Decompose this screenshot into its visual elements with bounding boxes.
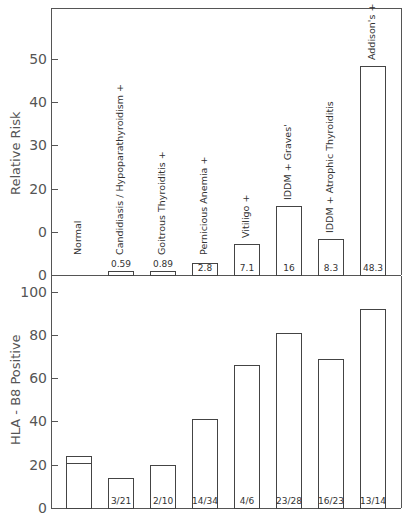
- figure: 0020304050Relative RiskNormal0.59Candidi…: [0, 0, 409, 523]
- relative-risk-value: 0.89: [150, 259, 176, 269]
- bottom-y-tick: [51, 335, 58, 336]
- bottom-y-tick: [51, 465, 58, 466]
- top-x-axis: [51, 275, 401, 276]
- relative-risk-value: 0.59: [108, 259, 134, 269]
- category-label: IDDM + Atrophic Thyroiditis: [324, 101, 335, 233]
- category-label: Addison's + IDDM: [366, 0, 377, 60]
- relative-risk-value: 48.3: [360, 263, 386, 273]
- relative-risk-bar: [108, 271, 134, 276]
- top-y-axis-label: Relative Risk: [8, 111, 23, 195]
- bottom-y-tick: [51, 421, 58, 422]
- top-y-tick-label: 50: [13, 52, 47, 66]
- hla-b8-bar: [66, 456, 92, 509]
- top-frame-top: [51, 8, 401, 9]
- hla-b8-fraction: 2/10: [150, 496, 176, 506]
- normal-inner-line: [66, 463, 92, 464]
- hla-b8-bar: [276, 333, 302, 509]
- bottom-y-tick: [51, 508, 58, 509]
- hla-b8-bar: [318, 359, 344, 509]
- category-label: IDDM + Graves': [282, 124, 293, 200]
- hla-b8-fraction: 4/6: [234, 496, 260, 506]
- relative-risk-value: 7.1: [234, 263, 260, 273]
- hla-b8-bar: [360, 309, 386, 509]
- hla-b8-fraction: 14/34: [192, 496, 218, 506]
- bottom-y-tick-label: 20: [13, 458, 47, 472]
- relative-risk-bar: [150, 271, 176, 276]
- bottom-y-tick-label: 100: [13, 285, 47, 299]
- top-y-tick: [51, 189, 58, 190]
- top-y-tick-label: 40: [13, 95, 47, 109]
- top-y-tick: [51, 102, 58, 103]
- bottom-y-axis-label: HLA - B8 Positive: [8, 334, 23, 445]
- category-label: Goitrous Thyroiditis +: [156, 151, 167, 255]
- relative-risk-value: 16: [276, 263, 302, 273]
- category-label: Pernicious Anemia +: [198, 157, 209, 255]
- hla-b8-fraction: 23/28: [276, 496, 302, 506]
- category-label: Candidiasis / Hypoparathyroidism +: [114, 84, 125, 255]
- top-frame-right: [401, 8, 402, 275]
- hla-b8-bar: [234, 365, 260, 509]
- hla-b8-fraction: 3/21: [108, 496, 134, 506]
- top-y-tick-label: 0: [13, 225, 47, 239]
- hla-b8-fraction: 13/14: [360, 496, 386, 506]
- hla-b8-fraction: 16/23: [318, 496, 344, 506]
- bottom-x-axis: [51, 508, 401, 509]
- top-y-tick-label: 0: [13, 268, 47, 282]
- bottom-y-tick: [51, 378, 58, 379]
- bottom-y-tick: [51, 292, 58, 293]
- bottom-y-tick-label: 0: [13, 501, 47, 515]
- top-y-tick: [51, 59, 58, 60]
- category-label: Normal: [72, 221, 83, 255]
- top-y-axis: [51, 8, 52, 275]
- top-y-tick: [51, 232, 58, 233]
- top-y-tick: [51, 145, 58, 146]
- relative-risk-value: 2.8: [192, 263, 218, 273]
- bottom-frame-right: [401, 276, 402, 508]
- bottom-y-axis: [51, 276, 52, 508]
- relative-risk-bar: [360, 66, 386, 276]
- top-y-tick: [51, 275, 58, 276]
- relative-risk-value: 8.3: [318, 263, 344, 273]
- category-label: Vitiligo +: [240, 195, 251, 238]
